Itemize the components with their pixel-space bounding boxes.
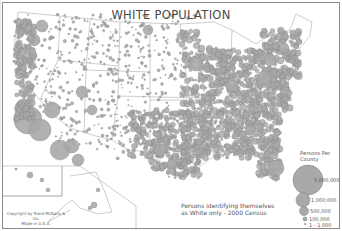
legend-label-1000000: 1,000,000 bbox=[311, 197, 336, 203]
map-caption: Persons identifying themselves as White … bbox=[181, 202, 274, 216]
population-map bbox=[0, 0, 342, 231]
legend-circle-500000 bbox=[300, 207, 309, 216]
legend-circle-100000 bbox=[303, 217, 307, 221]
copyright-line2: Made in U.S.A. bbox=[6, 221, 66, 226]
legend-label-500000: 500,000 bbox=[310, 208, 331, 214]
copyright-line1: Copyright by Rand McNally & Co. bbox=[6, 211, 66, 221]
legend-label-5000000: 5,000,000 bbox=[314, 177, 339, 183]
legend-title: Persons Per County bbox=[300, 150, 330, 162]
legend-title-line2: County bbox=[300, 156, 330, 162]
legend-circle-1000000 bbox=[296, 193, 310, 207]
legend-label-1-1000: 1 - 1,000 bbox=[309, 222, 331, 228]
copyright-notice: Copyright by Rand McNally & Co. Made in … bbox=[6, 211, 66, 226]
legend-circle-1-1000 bbox=[304, 223, 305, 224]
caption-line2: as White only - 2000 Census bbox=[181, 209, 274, 216]
caption-line1: Persons identifying themselves bbox=[181, 202, 274, 209]
county-population-symbols bbox=[13, 13, 303, 210]
map-title: WHITE POPULATION bbox=[0, 8, 342, 22]
